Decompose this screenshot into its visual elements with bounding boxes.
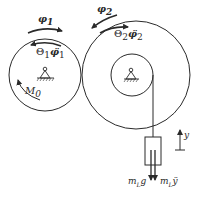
theta1-label: Θ1φ̈1 xyxy=(36,47,65,60)
wheel-1 xyxy=(9,29,81,111)
load-mass xyxy=(145,137,161,165)
m0-label: M0 xyxy=(25,86,41,99)
phi2-label: φ2 xyxy=(97,4,112,17)
diagram-canvas xyxy=(0,0,200,201)
inertia-force-label: mLÿ xyxy=(160,177,178,188)
phi1-label: φ1 xyxy=(38,14,53,27)
phi1-arrow-icon xyxy=(28,29,62,33)
y-axis-label: y xyxy=(184,131,189,140)
pivot-support-1-icon xyxy=(37,67,54,81)
pivot-support-2-icon xyxy=(124,68,139,82)
weight-label: mLg xyxy=(128,177,146,188)
theta2-label: Θ2φ̈2 xyxy=(114,29,143,42)
